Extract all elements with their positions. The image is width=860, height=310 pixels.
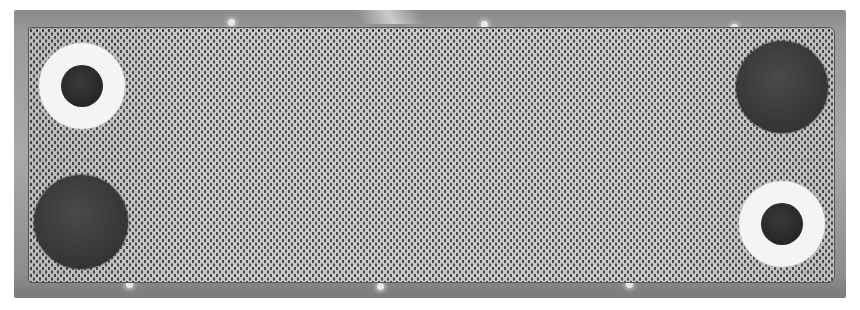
corrugated-plate bbox=[28, 27, 835, 283]
port-bottom-left-open bbox=[34, 175, 128, 269]
port-bottom-right-ringed bbox=[739, 181, 825, 267]
port-top-left-ringed bbox=[39, 43, 125, 129]
port-bore bbox=[761, 203, 803, 245]
frame-highlight bbox=[355, 10, 425, 24]
port-bore bbox=[61, 65, 103, 107]
port-top-right-open bbox=[736, 41, 828, 133]
frame-bolt-bottom-center bbox=[377, 283, 384, 290]
frame-bolt-top-left bbox=[228, 19, 235, 26]
